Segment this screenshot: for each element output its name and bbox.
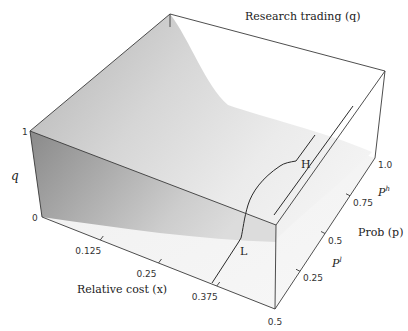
x-tick-label: 0.375 [192,292,218,302]
p-tick-label: 1.0 [378,160,393,170]
surface-plot: 0.1250.250.3750.5 0.250.50.751.0 1 0 q R… [0,0,408,331]
z-tick-label-1: 1 [22,127,28,137]
x-tick-label: 0.25 [136,269,156,279]
p-marker-high: Ph [377,185,390,199]
z-axis-label: q [11,169,19,183]
x-tick-label: 0.125 [75,246,101,256]
x-axis-label: Relative cost (x) [77,283,167,296]
x-tick-label: 0.5 [268,317,282,327]
p-marker-low: Pl [331,256,342,270]
annotation-h: H [301,158,311,171]
p-tick-label: 0.75 [353,198,373,208]
chart-title: Research trading (q) [245,10,361,23]
annotation-l: L [240,245,248,258]
p-marker-low-sup: l [339,256,341,264]
p-marker-high-sup: h [385,185,390,193]
p-axis-label: Prob (p) [358,226,403,239]
z-tick-label-0: 0 [32,213,38,223]
p-tick-label: 0.5 [328,236,342,246]
box-edge-back-right-vertical [375,71,385,158]
p-tick-label: 0.25 [303,273,323,283]
